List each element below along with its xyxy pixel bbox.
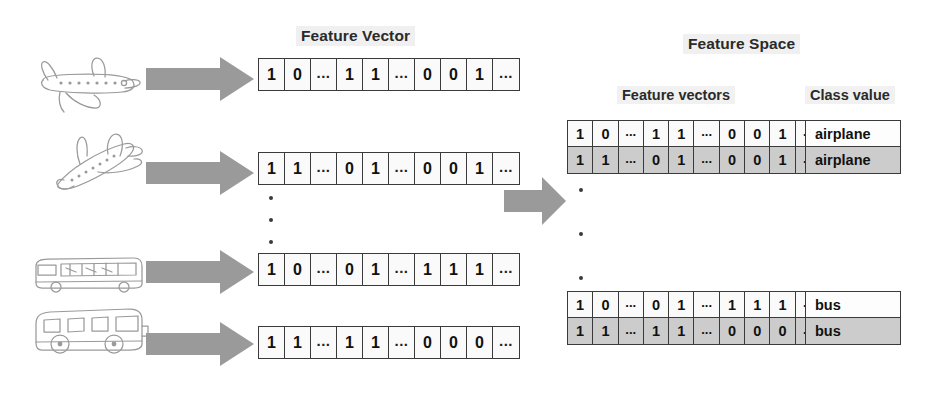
table-row: 1 0 ... 1 1 ... 0 0 1 ...	[568, 121, 821, 147]
vector-cell: 1	[337, 59, 363, 90]
vector-cell: 0	[720, 147, 745, 173]
vector-cell: 0	[441, 59, 467, 90]
vector-cell: 0	[337, 153, 363, 184]
vector-cell: 1	[259, 327, 285, 358]
diagram-canvas: Feature Vector Feature Space Feature vec…	[0, 0, 944, 406]
dot	[579, 188, 583, 192]
feature-vector-row-1: 1 0 ... 1 1 ... 0 0 1 ...	[258, 58, 520, 91]
vector-cell: 1	[363, 327, 389, 358]
vector-cell: 1	[467, 254, 493, 285]
page-title-feature-space: Feature Space	[683, 34, 800, 54]
vector-cell: 0	[644, 292, 669, 317]
vector-cell: 1	[770, 121, 795, 146]
vector-cell: 1	[568, 292, 593, 317]
arrow-right-icon-4	[146, 322, 254, 366]
vector-cell: 1	[467, 153, 493, 184]
vector-cell: 0	[285, 59, 311, 90]
vector-cell: 1	[441, 254, 467, 285]
vector-cell: 1	[669, 121, 694, 146]
vector-cell: 0	[720, 121, 745, 146]
class-value-cell: bus	[806, 318, 900, 344]
vector-cell-ellipsis: ...	[389, 59, 415, 90]
vector-cell-ellipsis: ...	[694, 318, 719, 344]
bus-sketch-coach	[30, 254, 148, 296]
vector-cell-ellipsis: ...	[389, 153, 415, 184]
vertical-ellipsis-left	[269, 196, 273, 244]
class-value-cell: bus	[806, 292, 900, 318]
vector-cell-ellipsis: ...	[619, 292, 644, 317]
feature-space-vectors-airplane: 1 0 ... 1 1 ... 0 0 1 ... 1 1 ... 0 1 ..…	[567, 120, 822, 174]
vector-cell: 1	[770, 292, 795, 317]
vector-cell-ellipsis: ...	[311, 254, 337, 285]
vector-cell: 1	[363, 254, 389, 285]
column-header-class-value: Class value	[805, 86, 895, 104]
vector-cell: 0	[415, 327, 441, 358]
arrow-right-icon-1	[146, 57, 254, 101]
vector-cell: 1	[669, 292, 694, 317]
vector-cell-ellipsis: ...	[493, 327, 519, 358]
vector-cell: 1	[259, 254, 285, 285]
vector-cell: 1	[363, 153, 389, 184]
arrow-right-icon-2	[146, 151, 254, 195]
vector-cell: 1	[259, 59, 285, 90]
vector-cell: 1	[259, 153, 285, 184]
vector-cell: 0	[720, 318, 745, 344]
vector-cell: 0	[770, 318, 795, 344]
vector-cell-ellipsis: ...	[493, 254, 519, 285]
vector-cell-ellipsis: ...	[694, 147, 719, 173]
vector-cell: 1	[745, 292, 770, 317]
feature-vector-row-2: 1 1 ... 0 1 ... 0 0 1 ...	[258, 152, 520, 185]
bus-sketch-city	[26, 304, 152, 364]
dot	[579, 276, 583, 280]
vector-cell-ellipsis: ...	[311, 327, 337, 358]
vector-cell: 1	[285, 153, 311, 184]
vector-cell: 1	[669, 318, 694, 344]
vector-cell: 1	[669, 147, 694, 173]
feature-vector-row-4: 1 1 ... 1 1 ... 0 0 0 ...	[258, 326, 520, 359]
vector-cell: 1	[568, 318, 593, 344]
vector-cell-ellipsis: ...	[389, 327, 415, 358]
class-value-cell: airplane	[806, 147, 900, 173]
vector-cell-ellipsis: ...	[493, 59, 519, 90]
vector-cell: 1	[337, 327, 363, 358]
page-title-feature-vector: Feature Vector	[296, 26, 415, 46]
vector-cell-ellipsis: ...	[619, 121, 644, 146]
vector-cell: 1	[593, 147, 618, 173]
class-value-cell: airplane	[806, 121, 900, 147]
vector-cell-ellipsis: ...	[694, 121, 719, 146]
vertical-ellipsis-feature-space	[579, 188, 583, 280]
class-value-box-airplane: airplane airplane	[805, 120, 901, 174]
feature-space-vectors-bus: 1 0 ... 0 1 ... 1 1 1 ... 1 1 ... 1 1 ..…	[567, 291, 822, 345]
dot	[269, 196, 273, 200]
vector-cell: 1	[568, 147, 593, 173]
vector-cell: 0	[745, 318, 770, 344]
table-row: 1 0 ... 0 1 ... 1 1 1 ...	[568, 292, 821, 318]
vector-cell: 0	[745, 121, 770, 146]
feature-vector-row-3: 1 0 ... 0 1 ... 1 1 1 ...	[258, 253, 520, 286]
vector-cell: 1	[720, 292, 745, 317]
dot	[269, 218, 273, 222]
column-header-feature-vectors: Feature vectors	[617, 86, 735, 104]
vector-cell: 1	[568, 121, 593, 146]
vector-cell: 0	[467, 327, 493, 358]
vector-cell-ellipsis: ...	[311, 59, 337, 90]
vector-cell-ellipsis: ...	[694, 292, 719, 317]
vector-cell-ellipsis: ...	[311, 153, 337, 184]
vector-cell: 1	[644, 318, 669, 344]
table-row: 1 1 ... 0 1 ... 0 0 1 ...	[568, 147, 821, 173]
table-row: 1 1 ... 1 1 ... 0 0 0 ...	[568, 318, 821, 344]
airplane-sketch-level	[26, 50, 154, 118]
vector-cell: 0	[644, 147, 669, 173]
dot	[579, 232, 583, 236]
vector-cell-ellipsis: ...	[619, 318, 644, 344]
vector-cell-ellipsis: ...	[493, 153, 519, 184]
vector-cell: 0	[441, 327, 467, 358]
vector-cell: 0	[745, 147, 770, 173]
vector-cell: 1	[770, 147, 795, 173]
vector-cell: 1	[415, 254, 441, 285]
vector-cell: 0	[593, 121, 618, 146]
vector-cell-ellipsis: ...	[619, 147, 644, 173]
vector-cell: 0	[593, 292, 618, 317]
vector-cell: 1	[467, 59, 493, 90]
vector-cell: 1	[363, 59, 389, 90]
